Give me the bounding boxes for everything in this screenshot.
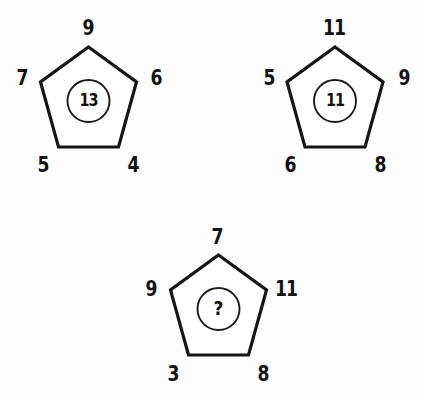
- pentagon-2-vertex-upper-right: 9: [399, 65, 411, 90]
- pentagon-1-vertex-lower-left: 5: [38, 152, 50, 177]
- pentagon-figure-2: 11 5 9 6 8 11: [264, 15, 411, 177]
- pentagon-1-vertex-lower-right: 4: [128, 152, 140, 177]
- pentagon-puzzle-canvas: 9 7 6 5 4 13 11 5 9 6 8 11 7 9 11 3 8: [0, 0, 423, 395]
- pentagon-1-vertex-upper-left: 7: [16, 65, 27, 90]
- pentagon-figure-1: 9 7 6 5 4 13: [16, 15, 162, 177]
- pentagon-3-vertex-upper-left: 9: [146, 276, 158, 301]
- pentagon-2-center-value: 11: [326, 90, 344, 110]
- pentagon-1-vertex-upper-right: 6: [151, 65, 163, 90]
- pentagon-3-vertex-lower-left: 3: [167, 361, 178, 386]
- pentagon-3-center-unknown: ?: [214, 297, 224, 319]
- pentagon-1-vertex-top: 9: [83, 15, 95, 40]
- pentagon-3-vertex-lower-right: 8: [258, 361, 270, 386]
- pentagon-3-vertex-top: 7: [211, 224, 222, 249]
- pentagon-2-vertex-upper-left: 5: [264, 65, 276, 90]
- puzzle-stage: 9 7 6 5 4 13 11 5 9 6 8 11 7 9 11 3 8: [0, 0, 423, 395]
- pentagon-figure-3: 7 9 11 3 8 ?: [146, 224, 298, 386]
- pentagon-2-vertex-lower-right: 8: [375, 152, 387, 177]
- pentagon-1-center-value: 13: [80, 90, 98, 110]
- pentagon-2-vertex-lower-left: 6: [285, 152, 297, 177]
- pentagon-3-vertex-upper-right: 11: [275, 276, 298, 301]
- pentagon-2-vertex-top: 11: [323, 15, 346, 40]
